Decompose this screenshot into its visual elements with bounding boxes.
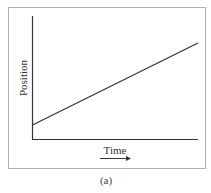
x-axis-label: Time <box>104 144 127 156</box>
y-axis-label: Position <box>17 59 29 96</box>
position-time-figure: Position Time (a) <box>0 0 211 193</box>
position-line <box>33 43 199 125</box>
figure-caption: (a) <box>100 174 113 187</box>
chart-svg: Position Time (a) <box>0 0 211 193</box>
time-arrow-icon <box>126 156 131 161</box>
